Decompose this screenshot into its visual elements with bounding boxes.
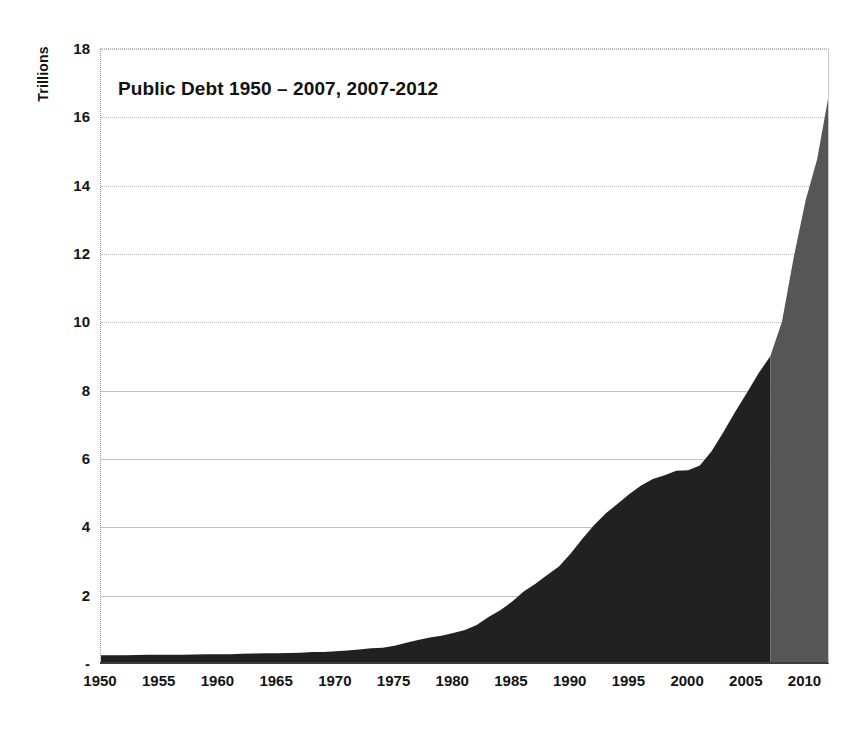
chart-title: Public Debt 1950 – 2007, 2007-2012 bbox=[118, 78, 438, 100]
series-layer bbox=[101, 49, 829, 664]
x-axis-tick-label: 2010 bbox=[788, 672, 821, 689]
x-axis-tick-label: 1950 bbox=[83, 672, 116, 689]
x-axis-tick-label: 1970 bbox=[318, 672, 351, 689]
y-axis-tick-label: - bbox=[42, 656, 90, 671]
x-axis-tick-label: 1960 bbox=[201, 672, 234, 689]
y-axis-tick-label: 18 bbox=[42, 41, 90, 56]
x-axis-tick-label: 2000 bbox=[670, 672, 703, 689]
y-axis-tick-label: 2 bbox=[42, 587, 90, 602]
x-axis-tick-label: 1990 bbox=[553, 672, 586, 689]
y-axis-tick-labels: -24681012141618 bbox=[42, 0, 90, 735]
plot-right-edge bbox=[828, 48, 829, 663]
y-axis-tick-label: 10 bbox=[42, 314, 90, 329]
x-axis-tick-label: 2005 bbox=[729, 672, 762, 689]
x-axis-tick-label: 1985 bbox=[494, 672, 527, 689]
y-axis-tick-label: 6 bbox=[42, 451, 90, 466]
y-axis-tick-label: 4 bbox=[42, 519, 90, 534]
x-axis-tick-label: 1980 bbox=[436, 672, 469, 689]
x-axis-tick-label: 1995 bbox=[612, 672, 645, 689]
x-axis-line bbox=[100, 662, 829, 664]
plot-area bbox=[100, 48, 829, 664]
x-axis-tick-labels: 1950195519601965197019751980198519901995… bbox=[0, 672, 865, 706]
series-area-historical bbox=[101, 356, 770, 664]
x-axis-tick-label: 1975 bbox=[377, 672, 410, 689]
y-axis-tick-label: 16 bbox=[42, 109, 90, 124]
y-axis-tick-label: 14 bbox=[42, 177, 90, 192]
x-axis-tick-label: 1955 bbox=[142, 672, 175, 689]
public-debt-area-chart: Trillions -24681012141618 Public Debt 19… bbox=[0, 0, 865, 735]
y-axis-tick-label: 12 bbox=[42, 246, 90, 261]
y-axis-tick-label: 8 bbox=[42, 382, 90, 397]
series-area-projection bbox=[770, 93, 829, 664]
x-axis-tick-label: 1965 bbox=[259, 672, 292, 689]
